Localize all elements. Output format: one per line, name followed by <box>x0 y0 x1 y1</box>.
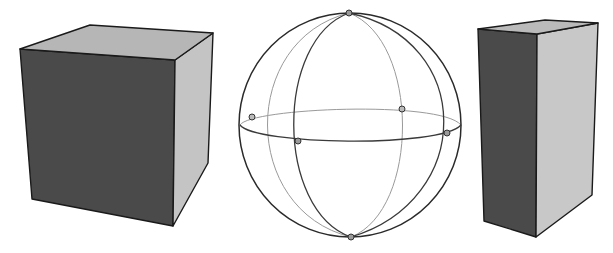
sphere-equator-front <box>240 125 461 141</box>
prism-right-face <box>536 23 598 237</box>
sphere-equator-back <box>240 109 461 125</box>
marker-equator-front-left <box>295 138 301 144</box>
marker-south-pole <box>348 234 354 240</box>
sphere-outline <box>239 13 461 237</box>
cube <box>20 25 213 226</box>
sphere-meridian-front-left <box>294 13 351 237</box>
marker-equator-back-left <box>249 114 255 120</box>
marker-equator-front-right <box>444 130 450 136</box>
cube-front-face <box>20 49 175 226</box>
sphere-meridian-back-left <box>267 13 351 237</box>
cube-right-face <box>173 33 213 226</box>
sphere <box>239 10 461 240</box>
marker-north-pole <box>346 10 352 16</box>
shapes-diagram <box>0 0 613 253</box>
prism-front-face <box>478 29 537 237</box>
sphere-meridian-back-right <box>349 13 403 237</box>
rectangular-prism <box>478 20 598 237</box>
marker-equator-back-right <box>399 106 405 112</box>
